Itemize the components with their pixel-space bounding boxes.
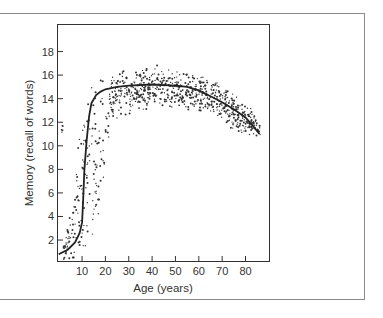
data-point — [160, 81, 162, 83]
data-point — [192, 103, 193, 104]
data-point — [165, 99, 166, 100]
x-tick-label: 50 — [169, 265, 181, 277]
data-point — [256, 122, 258, 124]
data-point — [158, 73, 160, 75]
data-point — [207, 98, 208, 99]
data-point — [71, 233, 72, 234]
data-point — [151, 75, 152, 76]
data-point — [79, 188, 80, 189]
data-point — [171, 96, 173, 98]
data-point — [254, 125, 255, 126]
data-point — [135, 101, 136, 102]
data-point — [72, 223, 74, 225]
data-point — [259, 125, 261, 127]
data-point — [112, 111, 114, 113]
data-point — [247, 127, 248, 128]
data-point — [143, 98, 144, 99]
data-point — [217, 109, 218, 110]
data-point — [176, 71, 177, 72]
data-point — [240, 129, 241, 130]
data-point — [231, 99, 233, 101]
data-point — [67, 238, 68, 239]
data-point — [250, 108, 251, 109]
data-point — [251, 119, 253, 121]
data-point — [204, 106, 206, 108]
data-point — [197, 78, 198, 79]
data-point — [238, 130, 240, 132]
data-point — [259, 134, 260, 135]
data-point — [180, 90, 182, 92]
data-point — [174, 77, 175, 78]
data-point — [176, 94, 178, 96]
data-point — [163, 77, 165, 79]
data-point — [187, 106, 189, 108]
data-point — [160, 89, 161, 90]
data-point — [120, 90, 122, 92]
data-point — [211, 86, 212, 87]
data-point — [119, 73, 121, 75]
data-point — [102, 140, 104, 142]
data-point — [126, 94, 128, 96]
data-point — [191, 97, 192, 98]
data-point — [92, 200, 93, 201]
data-point — [229, 113, 230, 114]
data-point — [241, 104, 243, 106]
data-point — [145, 108, 147, 110]
data-point — [118, 110, 119, 111]
data-point — [176, 81, 177, 82]
data-point — [247, 114, 248, 115]
data-point — [241, 109, 242, 110]
data-point — [101, 158, 103, 160]
data-point — [181, 98, 183, 100]
data-point — [174, 95, 176, 97]
data-point — [76, 197, 78, 199]
data-point — [160, 93, 161, 94]
data-point — [225, 90, 226, 91]
data-point — [65, 242, 66, 243]
data-point — [122, 76, 123, 77]
data-point — [228, 102, 230, 104]
data-point — [256, 125, 257, 126]
data-point — [143, 82, 144, 83]
y-tick-label: 16 — [42, 69, 54, 81]
data-point — [154, 94, 156, 96]
data-point — [247, 108, 248, 109]
data-point — [67, 232, 69, 234]
data-point — [230, 127, 232, 129]
data-point — [210, 89, 211, 90]
data-point — [251, 111, 253, 113]
data-point — [243, 125, 244, 126]
data-point — [94, 191, 95, 192]
data-point — [114, 91, 115, 92]
data-point — [149, 96, 150, 97]
data-point — [107, 131, 109, 133]
data-point — [112, 115, 114, 117]
data-point — [166, 89, 168, 91]
y-tick-label: 10 — [42, 140, 54, 152]
data-point — [221, 105, 222, 106]
data-point — [184, 82, 186, 84]
data-point — [245, 129, 246, 130]
data-points — [61, 64, 261, 260]
data-point — [169, 77, 171, 79]
data-point — [201, 103, 203, 105]
data-point — [129, 104, 131, 106]
data-point — [82, 229, 84, 231]
data-point — [205, 84, 207, 86]
data-point — [96, 185, 97, 186]
data-point — [216, 103, 218, 105]
x-tick-label: 80 — [239, 265, 251, 277]
data-point — [177, 92, 178, 93]
data-point — [72, 257, 74, 259]
data-point — [64, 245, 66, 247]
data-point — [136, 74, 138, 76]
y-tick-label: 4 — [48, 210, 54, 222]
data-point — [92, 233, 93, 234]
data-point — [190, 102, 192, 104]
data-point — [182, 96, 183, 97]
data-point — [152, 92, 154, 94]
data-point — [239, 125, 241, 127]
data-point — [237, 118, 239, 120]
data-point — [86, 175, 87, 176]
data-point — [132, 95, 134, 97]
